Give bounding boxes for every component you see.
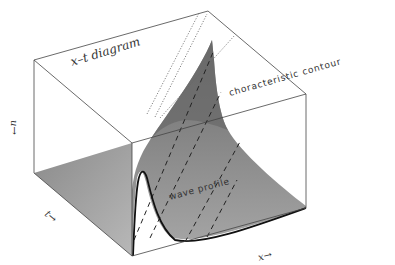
axis-t-label: t→ bbox=[43, 208, 60, 225]
axis-x-label: x→ bbox=[257, 249, 274, 263]
xt-diagram-figure: x–t diagram choracteristic contour wave … bbox=[0, 0, 395, 265]
axis-u-label: u→ bbox=[9, 120, 20, 135]
characteristic-contour-label: choracteristic contour bbox=[228, 56, 343, 98]
floor-shadow bbox=[34, 143, 132, 256]
